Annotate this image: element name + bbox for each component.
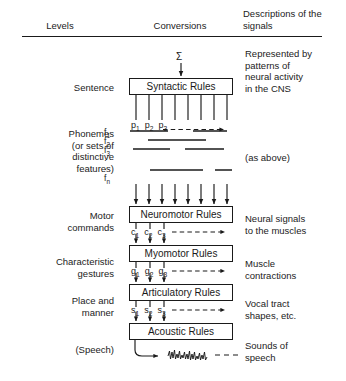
column-header-descriptions: Descriptions of the signals bbox=[243, 8, 343, 31]
signal-row-place-manner: s1 s2 s3 bbox=[131, 306, 166, 317]
signal-row-motor-commands: c1 c2 c3 bbox=[131, 228, 166, 239]
feature-label-column: f1 f2 f3 · · fn bbox=[104, 128, 110, 183]
description-gestures: Muscle contractions bbox=[245, 258, 296, 281]
description-motor-commands: Neural signals to the muscles bbox=[245, 213, 306, 236]
feature-bars bbox=[130, 131, 232, 170]
box-neuromotor-rules: Neuromotor Rules bbox=[129, 206, 233, 223]
description-sentence: Represented by patterns of neural activi… bbox=[245, 48, 312, 94]
header-divider-rule bbox=[22, 36, 322, 37]
box-syntactic-rules: Syntactic Rules bbox=[129, 78, 233, 95]
box-myomotor-rules: Myomotor Rules bbox=[129, 245, 233, 262]
description-speech: Sounds of speech bbox=[245, 340, 288, 363]
level-label-motor-commands: Motor commands bbox=[68, 210, 114, 233]
column-header-levels: Levels bbox=[14, 20, 106, 32]
level-label-speech: (Speech) bbox=[75, 344, 114, 356]
description-place-and-manner: Vocal tract shapes, etc. bbox=[245, 298, 296, 321]
speech-waveform bbox=[168, 350, 207, 360]
box-acoustic-rules: Acoustic Rules bbox=[129, 323, 233, 340]
column-header-conversions: Conversions bbox=[128, 20, 232, 32]
level-label-characteristic-gestures: Characteristic gestures bbox=[56, 256, 114, 279]
description-phonemes: (as above) bbox=[245, 152, 290, 164]
sigma-symbol: Σ bbox=[176, 52, 182, 62]
box-articulatory-rules: Articulatory Rules bbox=[129, 284, 233, 301]
speech-production-diagram: Levels Conversions Descriptions of the s… bbox=[0, 0, 346, 381]
level-label-place-and-manner: Place and manner bbox=[72, 295, 114, 318]
signal-row-phonemes: p1 p2 p3 bbox=[131, 121, 167, 132]
signal-row-gestures: g1 g2 g3 bbox=[131, 267, 167, 278]
arrow-acoustic-to-waveform bbox=[135, 340, 158, 356]
level-label-sentence: Sentence bbox=[74, 82, 114, 94]
feature-label-fn: fn bbox=[104, 174, 110, 183]
